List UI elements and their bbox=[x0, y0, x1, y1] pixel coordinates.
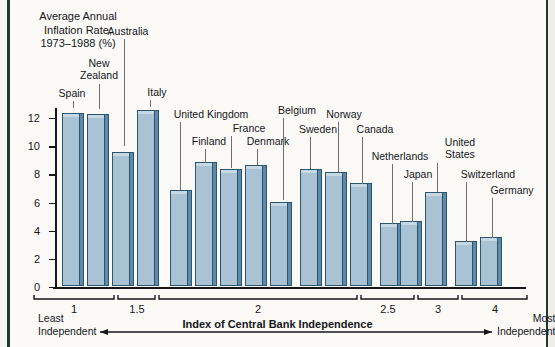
bar-side bbox=[154, 110, 159, 286]
label-leader-line bbox=[73, 101, 74, 108]
bar-side bbox=[417, 221, 422, 286]
bar-label-sweden: Sweden bbox=[299, 124, 337, 136]
bar-top bbox=[380, 223, 398, 227]
bar-label-netherlands: Netherlands bbox=[372, 151, 429, 163]
bar-canada bbox=[350, 183, 372, 286]
bar-united-kingdom bbox=[170, 190, 192, 286]
bar-new-zealand bbox=[87, 114, 109, 286]
bar-top bbox=[270, 202, 288, 206]
bar-face bbox=[270, 205, 288, 287]
bar-top bbox=[87, 114, 105, 118]
bar-norway bbox=[325, 172, 347, 286]
bar-side bbox=[79, 113, 84, 286]
y-tick-12: 12 bbox=[49, 118, 55, 119]
bar-face bbox=[455, 244, 473, 286]
label-leader-line bbox=[283, 118, 284, 200]
frame-border-left bbox=[7, 0, 10, 347]
bar-top bbox=[455, 241, 473, 245]
label-leader-line bbox=[180, 122, 181, 190]
y-tick-10: 10 bbox=[49, 146, 55, 147]
bar-side bbox=[287, 202, 292, 287]
bar-side bbox=[212, 162, 217, 286]
y-tick-0: 0 bbox=[49, 287, 55, 288]
bar-face bbox=[350, 186, 368, 286]
y-tick-label-4: 4 bbox=[34, 225, 40, 237]
bar-side bbox=[497, 237, 502, 286]
bar-label-finland: Finland bbox=[192, 136, 226, 148]
bar-side bbox=[129, 152, 134, 286]
label-leader-line bbox=[310, 137, 311, 169]
y-tick-label-2: 2 bbox=[34, 253, 40, 265]
bar-label-switzerland: Switzerland bbox=[461, 169, 515, 181]
bar-top bbox=[425, 192, 443, 196]
bar-face bbox=[112, 155, 130, 286]
bar-top bbox=[195, 162, 213, 166]
bar-top bbox=[137, 110, 155, 114]
bar-face bbox=[380, 226, 398, 286]
bar-top bbox=[220, 169, 238, 173]
bar-netherlands bbox=[380, 223, 402, 286]
bar-side bbox=[187, 190, 192, 286]
x-tick-label-3: 3 bbox=[435, 303, 441, 315]
bar-top bbox=[300, 169, 318, 173]
bar-side bbox=[317, 169, 322, 286]
axis-end-label-least: Least Independent bbox=[38, 312, 96, 337]
bar-top bbox=[480, 237, 498, 241]
x-axis-line bbox=[53, 287, 526, 289]
label-leader-line bbox=[362, 137, 363, 184]
bar-face bbox=[245, 168, 263, 286]
bar-top bbox=[350, 183, 368, 187]
bar-france bbox=[220, 169, 242, 286]
x-tick-label-2-5: 2.5 bbox=[380, 303, 395, 315]
label-leader-line bbox=[412, 182, 413, 222]
bar-side bbox=[104, 114, 109, 286]
bar-face bbox=[170, 193, 188, 286]
bar-belgium bbox=[270, 202, 292, 287]
bar-face bbox=[300, 172, 318, 286]
bar-face bbox=[87, 117, 105, 286]
bar-label-belgium: Belgium bbox=[278, 105, 316, 117]
bar-face bbox=[325, 175, 343, 286]
bar-side bbox=[342, 172, 347, 286]
bar-finland bbox=[195, 162, 217, 286]
y-tick-8: 8 bbox=[49, 174, 55, 175]
bar-label-italy: Italy bbox=[147, 87, 166, 99]
label-leader-line bbox=[99, 84, 100, 109]
bar-side bbox=[472, 241, 477, 286]
bar-spain bbox=[62, 113, 84, 286]
label-leader-line bbox=[392, 164, 393, 224]
bar-face bbox=[425, 195, 443, 286]
bar-switzerland bbox=[455, 241, 477, 286]
bar-face bbox=[137, 113, 155, 286]
y-tick-label-6: 6 bbox=[34, 197, 40, 209]
bar-face bbox=[220, 172, 238, 286]
bar-label-canada: Canada bbox=[357, 124, 394, 136]
bar-top bbox=[400, 221, 418, 225]
bar-face bbox=[400, 224, 418, 286]
label-leader-line bbox=[124, 39, 125, 146]
y-tick-6: 6 bbox=[49, 203, 55, 204]
label-leader-line bbox=[150, 100, 151, 107]
bar-denmark bbox=[245, 165, 267, 286]
bar-side bbox=[262, 165, 267, 286]
bar-top bbox=[112, 152, 130, 156]
bar-side bbox=[442, 192, 447, 286]
label-leader-line bbox=[466, 182, 467, 242]
bar-label-new-zealand: New Zealand bbox=[80, 58, 118, 81]
label-leader-line bbox=[231, 136, 232, 168]
bar-united-states bbox=[425, 192, 447, 286]
bar-label-united-kingdom: United Kingdom bbox=[174, 109, 249, 121]
bar-top bbox=[62, 113, 80, 117]
bar-label-united-states: United States bbox=[445, 137, 475, 160]
bar-label-japan: Japan bbox=[404, 169, 433, 181]
y-tick-label-8: 8 bbox=[34, 168, 40, 180]
bar-side bbox=[367, 183, 372, 286]
paper-edge-left bbox=[0, 0, 7, 347]
label-leader-line bbox=[338, 122, 339, 172]
y-axis-line bbox=[55, 108, 57, 288]
bar-label-france: France bbox=[233, 123, 266, 135]
y-tick-2: 2 bbox=[49, 259, 55, 260]
bar-top bbox=[245, 165, 263, 169]
bar-side bbox=[237, 169, 242, 286]
label-leader-line bbox=[205, 149, 206, 163]
